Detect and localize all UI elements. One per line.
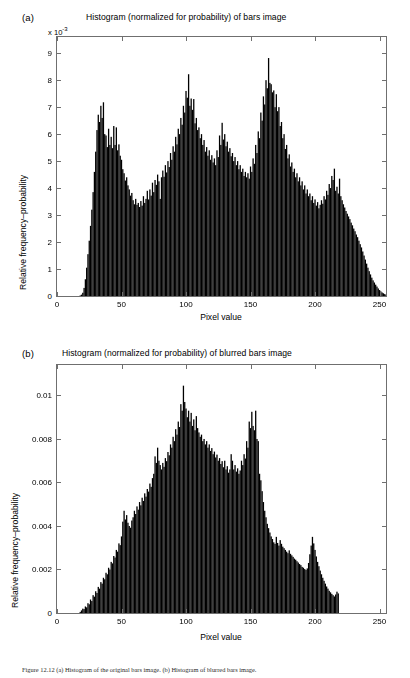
x-tick-mark-top	[122, 365, 123, 369]
x-tick-label: 150	[244, 617, 257, 626]
x-tick-label: 100	[179, 617, 192, 626]
x-tick-label: 200	[308, 617, 321, 626]
x-tick-mark	[57, 609, 58, 613]
x-axis-title-b: Pixel value	[200, 632, 242, 642]
y-tick-label: 3	[8, 211, 52, 220]
x-tick-mark-top	[315, 37, 316, 41]
x-tick-mark-top	[186, 365, 187, 369]
chart-panel-b: (b) Histogram (normalized for probabilit…	[0, 338, 410, 656]
y-tick-mark-right	[382, 482, 386, 483]
y-tick-mark	[57, 439, 61, 440]
y-tick-label: 0	[8, 609, 52, 618]
y-tick-label: 0.004	[8, 521, 52, 530]
y-tick-label: 6	[8, 130, 52, 139]
x-tick-mark-top	[122, 37, 123, 41]
y-tick-mark-right	[382, 296, 386, 297]
x-tick-label: 250	[373, 300, 386, 309]
y-tick-mark	[57, 296, 61, 297]
y-tick-mark	[57, 482, 61, 483]
y-tick-mark-right	[382, 613, 386, 614]
x-tick-mark	[122, 292, 123, 296]
y-tick-mark-right	[382, 439, 386, 440]
y-axis-title-b: Relative frequency–probability	[10, 493, 20, 608]
y-tick-mark	[57, 80, 61, 81]
x-tick-label: 150	[244, 300, 257, 309]
x-tick-mark	[57, 292, 58, 296]
panel-label-a: (a)	[22, 12, 34, 23]
y-tick-mark	[57, 242, 61, 243]
y-axis-exponent-a: x 10-3	[48, 26, 68, 37]
x-tick-label: 250	[373, 617, 386, 626]
y-tick-mark	[57, 269, 61, 270]
x-tick-mark-top	[251, 365, 252, 369]
chart-title-a: Histogram (normalized for probability) o…	[86, 12, 286, 22]
x-axis-title-a: Pixel value	[200, 312, 242, 322]
y-tick-mark	[57, 161, 61, 162]
x-tick-mark-top	[315, 365, 316, 369]
plot-area-b	[56, 364, 387, 614]
y-tick-mark-right	[382, 215, 386, 216]
y-tick-label: 7	[8, 103, 52, 112]
y-tick-mark	[57, 107, 61, 108]
y-tick-label: 9	[8, 49, 52, 58]
x-tick-label: 0	[55, 300, 59, 309]
x-tick-mark	[380, 609, 381, 613]
chart-panel-a: (a) Histogram (normalized for probabilit…	[0, 0, 410, 338]
y-tick-mark	[57, 134, 61, 135]
x-tick-label: 200	[308, 300, 321, 309]
y-tick-mark-right	[382, 188, 386, 189]
panel-label-b: (b)	[22, 348, 34, 359]
x-tick-mark-top	[251, 37, 252, 41]
x-tick-label: 100	[179, 300, 192, 309]
y-tick-label: 4	[8, 184, 52, 193]
histogram-bars-a	[57, 37, 386, 296]
y-axis-exponent-power-a: -3	[62, 26, 67, 32]
chart-title-b: Histogram (normalized for probability) o…	[62, 348, 292, 358]
y-tick-mark	[57, 53, 61, 54]
y-tick-label: 0	[8, 292, 52, 301]
x-tick-mark	[251, 292, 252, 296]
x-tick-mark-top	[57, 365, 58, 369]
histogram-bars-b	[57, 365, 386, 613]
y-tick-mark-right	[382, 53, 386, 54]
y-tick-mark-right	[382, 134, 386, 135]
x-tick-label: 0	[55, 617, 59, 626]
y-tick-mark	[57, 526, 61, 527]
x-tick-mark	[122, 609, 123, 613]
y-tick-label: 0.002	[8, 565, 52, 574]
y-tick-mark-right	[382, 80, 386, 81]
y-tick-mark	[57, 613, 61, 614]
y-tick-label: 5	[8, 157, 52, 166]
y-tick-label: 0.006	[8, 478, 52, 487]
x-tick-mark-top	[380, 37, 381, 41]
x-tick-mark	[186, 292, 187, 296]
y-tick-mark-right	[382, 269, 386, 270]
x-tick-mark	[380, 292, 381, 296]
y-tick-mark-right	[382, 526, 386, 527]
x-tick-label: 50	[117, 617, 126, 626]
x-tick-label: 50	[117, 300, 126, 309]
y-tick-label: 0.01	[8, 391, 52, 400]
y-tick-mark-right	[382, 107, 386, 108]
y-tick-label: 1	[8, 265, 52, 274]
y-tick-label: 2	[8, 238, 52, 247]
x-tick-mark-top	[186, 37, 187, 41]
y-tick-mark-right	[382, 569, 386, 570]
y-tick-mark-right	[382, 242, 386, 243]
y-tick-mark	[57, 569, 61, 570]
x-tick-mark	[186, 609, 187, 613]
x-tick-mark	[315, 292, 316, 296]
x-tick-mark-top	[380, 365, 381, 369]
y-tick-mark	[57, 215, 61, 216]
x-tick-mark	[251, 609, 252, 613]
y-tick-mark-right	[382, 395, 386, 396]
y-tick-label: 0.008	[8, 434, 52, 443]
x-tick-mark-top	[57, 37, 58, 41]
figure-container: (a) Histogram (normalized for probabilit…	[0, 0, 410, 678]
plot-area-a	[56, 36, 387, 297]
y-tick-mark-right	[382, 161, 386, 162]
figure-caption: Figure 12.12 (a) Histogram of the origin…	[22, 666, 394, 674]
x-tick-mark	[315, 609, 316, 613]
y-tick-label: 8	[8, 76, 52, 85]
y-tick-mark	[57, 188, 61, 189]
